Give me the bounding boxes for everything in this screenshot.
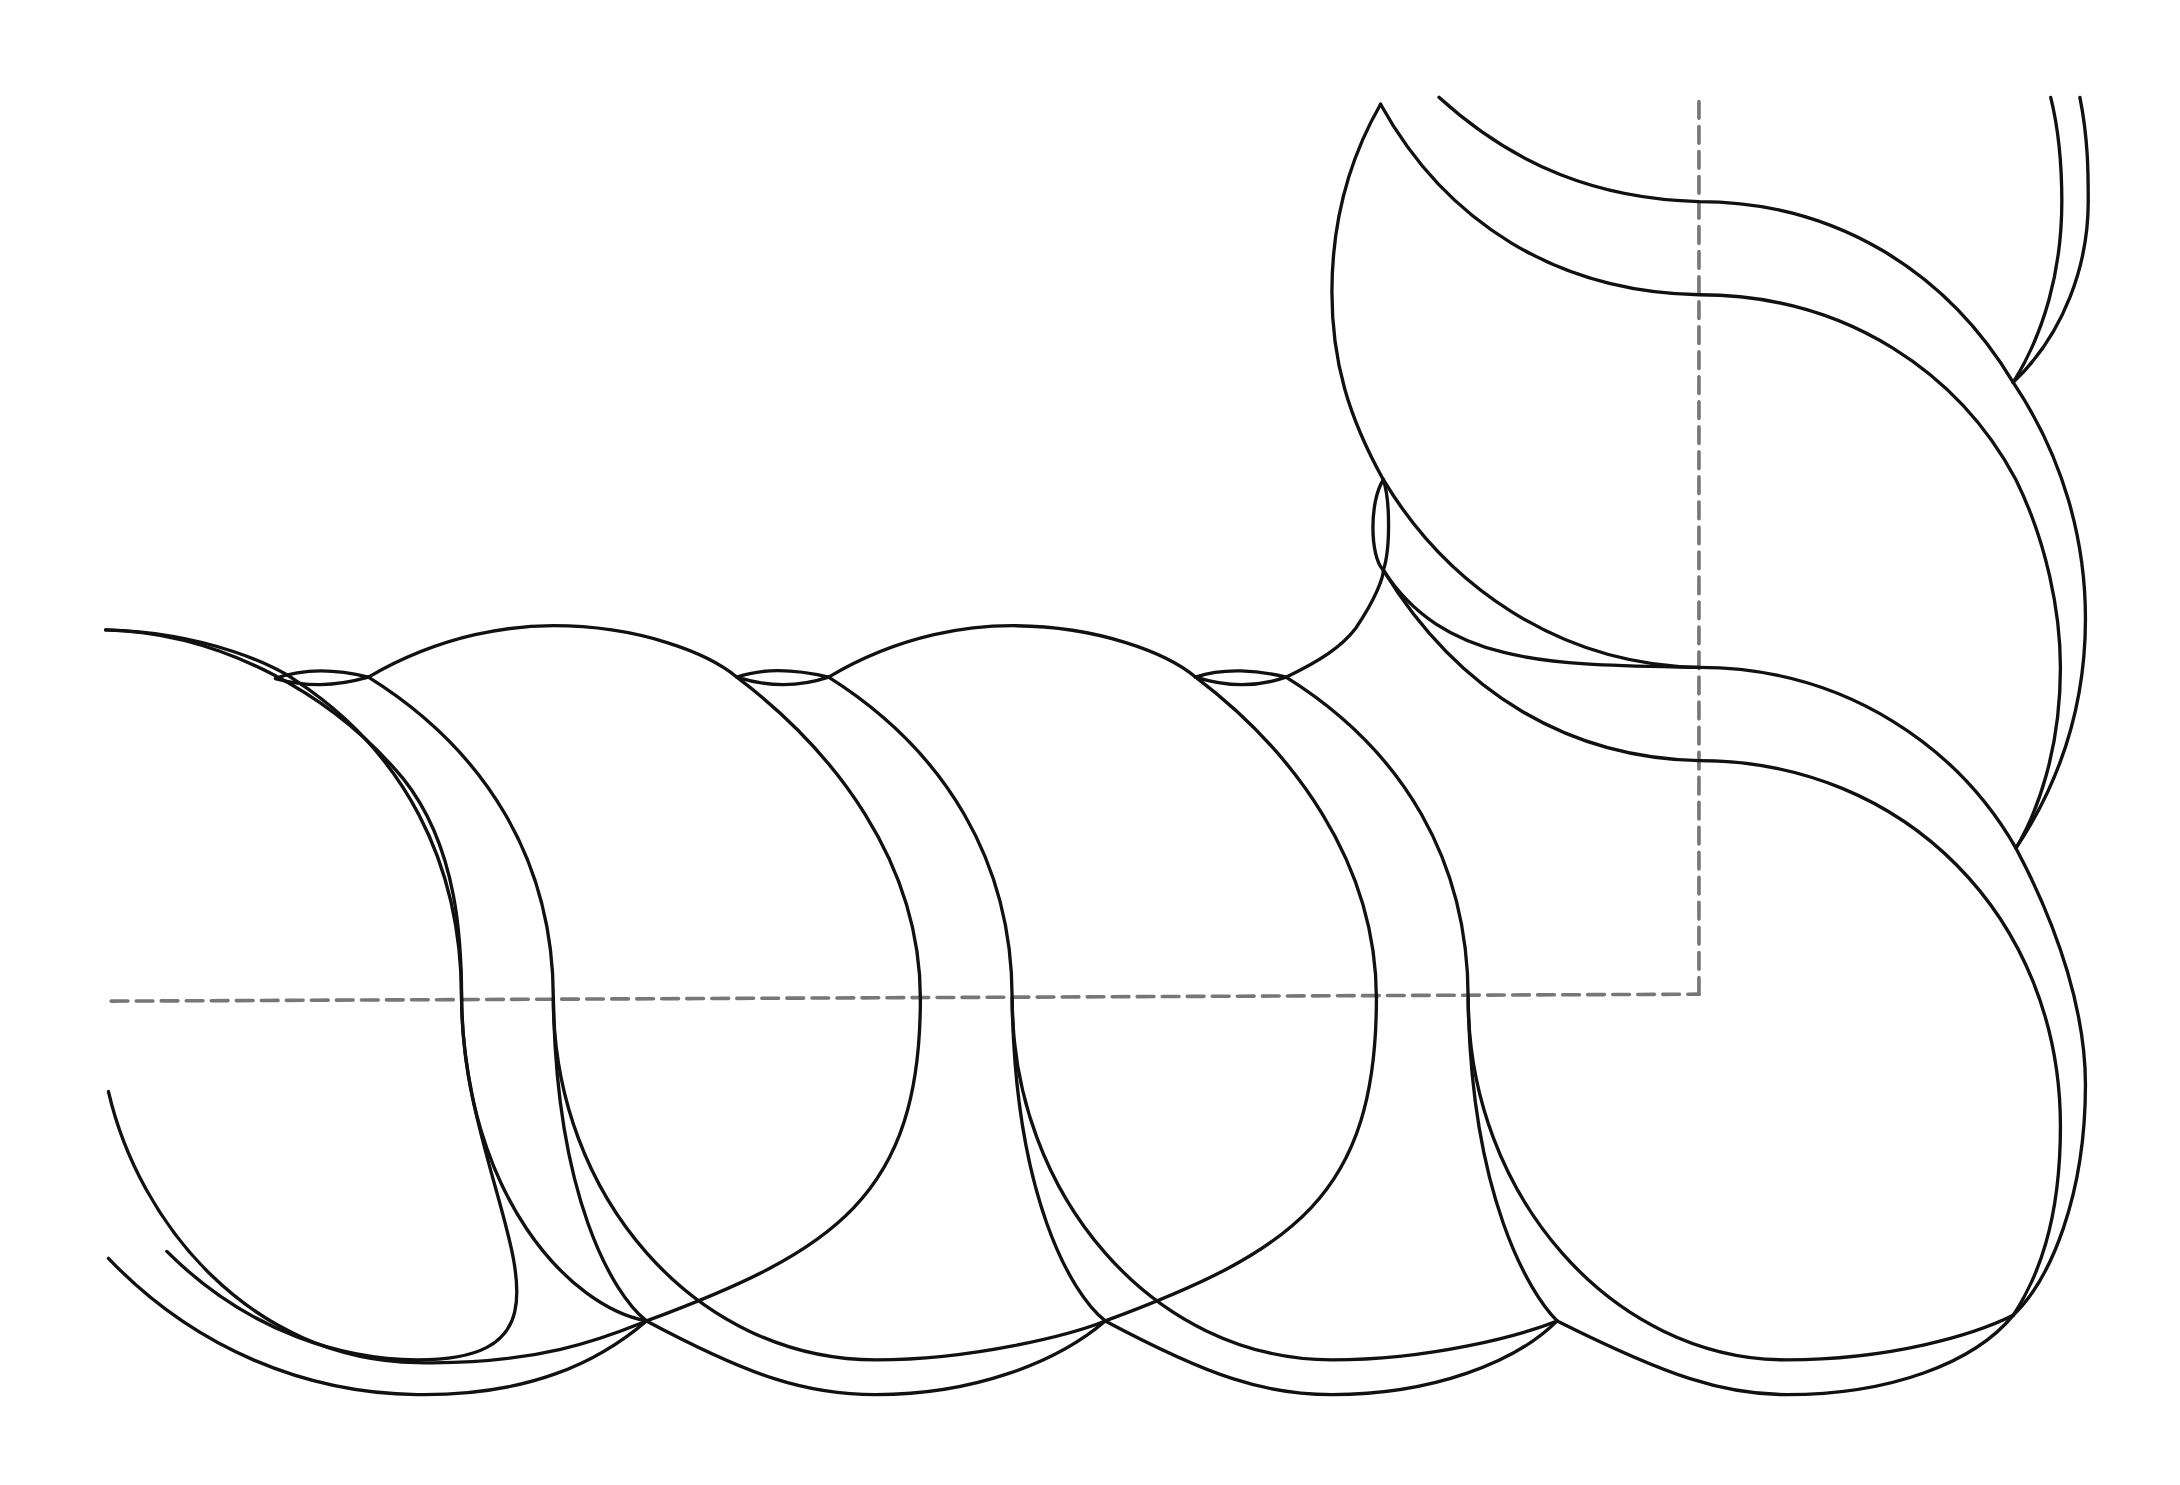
horizontal-segment-4 bbox=[1105, 570, 2013, 1395]
horizontal-segment-3 bbox=[646, 626, 1557, 1395]
centerlines bbox=[111, 97, 1699, 1001]
horizontal-segment-2 bbox=[275, 626, 1105, 1395]
horizontal-segment-1 bbox=[106, 630, 647, 1395]
vertical-segment-upper bbox=[1381, 97, 2089, 848]
horizontal-centerline bbox=[111, 994, 1699, 1001]
corner-chain-drawing bbox=[0, 0, 2180, 1485]
vertical-segment-lower bbox=[1332, 104, 2086, 1315]
